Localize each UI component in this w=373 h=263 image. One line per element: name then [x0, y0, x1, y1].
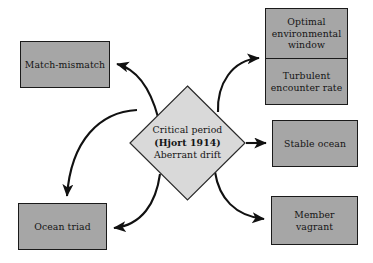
- node-optimal-environmental-window-line2: environmental: [272, 28, 342, 40]
- node-optimal-environmental-window-line1: Optimal: [287, 16, 325, 28]
- node-member-vagrant[interactable]: Member vagrant: [271, 196, 358, 245]
- node-match-mismatch-label: Match-mismatch: [21, 58, 109, 72]
- node-turbulent-encounter-rate-line1: Turbulent: [283, 70, 331, 82]
- node-environment-group[interactable]: Optimal environmental window Turbulent e…: [265, 8, 348, 105]
- node-turbulent-encounter-rate-line2: encounter rate: [271, 82, 343, 94]
- critical-period-line3: Aberrant drift: [154, 149, 221, 162]
- critical-period-line1: Critical period: [153, 124, 223, 137]
- node-ocean-triad-label: Ocean triad: [19, 220, 106, 234]
- node-critical-period[interactable]: Critical period (Hjort 1914) Aberrant dr…: [129, 85, 246, 201]
- node-turbulent-encounter-rate[interactable]: Turbulent encounter rate: [266, 59, 347, 104]
- node-ocean-triad[interactable]: Ocean triad: [18, 203, 107, 250]
- node-member-vagrant-label: Member vagrant: [272, 208, 357, 234]
- node-critical-period-label: Critical period (Hjort 1914) Aberrant dr…: [129, 85, 246, 201]
- edge-critical-period-to-ocean-triad-top: [67, 110, 137, 196]
- critical-period-line2: (Hjort 1914): [154, 137, 221, 150]
- node-optimal-environmental-window[interactable]: Optimal environmental window: [266, 9, 347, 59]
- node-optimal-environmental-window-line3: window: [288, 39, 325, 51]
- diagram-canvas: Match-mismatch Ocean triad Optimal envir…: [0, 0, 373, 263]
- node-stable-ocean[interactable]: Stable ocean: [272, 120, 358, 167]
- node-stable-ocean-label: Stable ocean: [273, 137, 357, 151]
- node-match-mismatch[interactable]: Match-mismatch: [20, 41, 110, 88]
